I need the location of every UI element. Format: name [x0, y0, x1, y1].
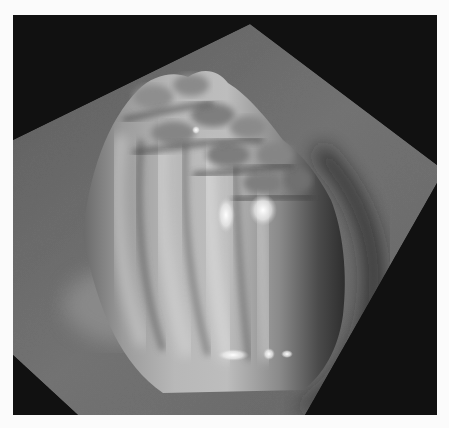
surface-render-frame	[13, 15, 437, 415]
surface-render	[13, 15, 437, 415]
